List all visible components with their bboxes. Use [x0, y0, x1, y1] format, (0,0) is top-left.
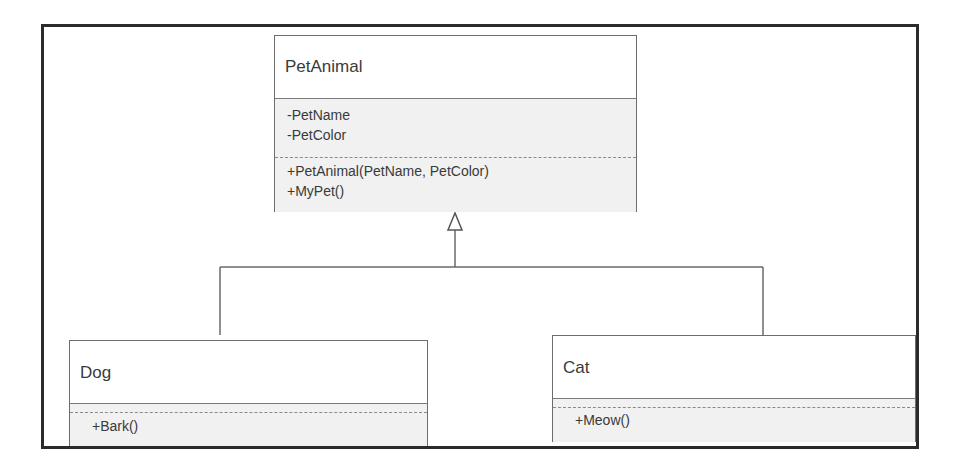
operation-mypet: +MyPet() [275, 181, 636, 201]
class-name: PetAnimal [275, 36, 636, 99]
attribute-petname: -PetName [275, 105, 636, 125]
operations-section: +Bark() [70, 412, 427, 446]
attribute-petcolor: -PetColor [275, 125, 636, 145]
operations-section: +Meow() [553, 407, 915, 442]
operation-constructor: +PetAnimal(PetName, PetColor) [275, 161, 636, 181]
attributes-section [553, 399, 915, 407]
class-dog[interactable]: Dog +Bark() [69, 340, 428, 446]
class-cat[interactable]: Cat +Meow() [552, 335, 916, 442]
attributes-section: -PetName -PetColor [275, 99, 636, 157]
class-name: Cat [553, 336, 915, 399]
operation-bark: +Bark() [70, 416, 427, 436]
class-name: Dog [70, 341, 427, 404]
operations-section: +PetAnimal(PetName, PetColor) +MyPet() [275, 157, 636, 212]
operation-meow: +Meow() [553, 410, 915, 430]
attributes-section [70, 404, 427, 412]
class-petanimal[interactable]: PetAnimal -PetName -PetColor +PetAnimal(… [274, 35, 637, 212]
